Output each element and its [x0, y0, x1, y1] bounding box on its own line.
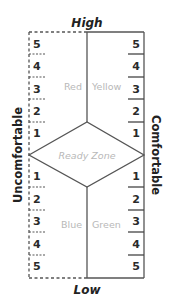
svg-text:5: 5 [132, 260, 140, 273]
svg-text:3: 3 [33, 83, 41, 96]
right-scale-bottom: 1 2 3 4 5 [132, 170, 140, 273]
svg-text:2: 2 [33, 105, 41, 118]
svg-text:3: 3 [33, 215, 41, 228]
svg-text:1: 1 [132, 170, 140, 183]
left-scale-top: 5 4 3 2 1 [33, 38, 41, 140]
blue-quadrant-label: Blue [61, 219, 82, 230]
svg-text:1: 1 [33, 127, 41, 140]
low-label: Low [74, 283, 102, 297]
left-scale-bottom: 1 2 3 4 5 [33, 170, 41, 273]
comfortable-label: Comfortable [149, 115, 163, 195]
uncomfortable-label: Uncomfortable [11, 107, 25, 203]
svg-text:5: 5 [132, 38, 140, 51]
svg-text:2: 2 [33, 193, 41, 206]
ready-zone-label: Ready Zone [58, 150, 115, 161]
svg-text:2: 2 [132, 105, 140, 118]
right-scale-top: 5 4 3 2 1 [132, 38, 140, 140]
svg-text:4: 4 [132, 238, 140, 251]
high-label: High [71, 16, 102, 30]
svg-text:5: 5 [33, 38, 41, 51]
green-quadrant-label: Green [92, 219, 121, 230]
svg-text:4: 4 [33, 60, 41, 73]
svg-text:1: 1 [132, 127, 140, 140]
svg-text:2: 2 [132, 193, 140, 206]
svg-text:4: 4 [33, 238, 41, 251]
ready-zone-diagram: High Low Uncomfortable Comfortable Red Y… [0, 0, 172, 306]
svg-text:3: 3 [132, 215, 140, 228]
svg-text:1: 1 [33, 170, 41, 183]
red-quadrant-label: Red [64, 81, 82, 92]
svg-text:4: 4 [132, 60, 140, 73]
svg-text:3: 3 [132, 83, 140, 96]
svg-text:5: 5 [33, 260, 41, 273]
yellow-quadrant-label: Yellow [91, 81, 121, 92]
